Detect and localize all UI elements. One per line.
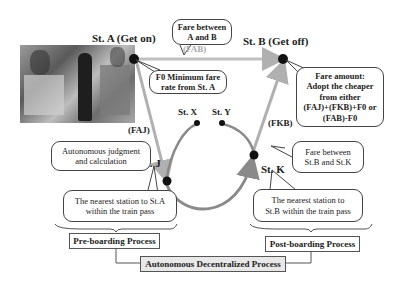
- route-y-k: [223, 124, 254, 155]
- route-j-x: [166, 124, 197, 183]
- post-boarding-process-box: Post-boarding Process: [265, 236, 360, 252]
- callout-f0: F0 Minimum fare rate from St. A: [149, 70, 227, 94]
- station-k-node: [250, 151, 259, 160]
- callout-line: A and B: [178, 32, 227, 43]
- station-k-label: St. K: [261, 163, 285, 175]
- post-boarding-brace: [250, 224, 372, 232]
- station-x-node: [194, 120, 200, 126]
- callout-nearest-a: The nearest station to St.A within the t…: [63, 190, 177, 222]
- station-b-node: [278, 54, 288, 64]
- callout-autonomous-judgment: Autonomous judgment and calculation: [51, 141, 151, 171]
- callout-line: Fare amount:: [303, 71, 376, 82]
- autonomous-decentralized-process-box: Autonomous Decentralized Process: [140, 256, 286, 272]
- station-a-node: [129, 54, 139, 64]
- callout-fare-ab: Fare between A and B: [172, 19, 232, 45]
- station-y-node: [219, 120, 225, 126]
- station-b-label: St. B (Get off): [243, 35, 308, 47]
- callout-line: within the train pass: [75, 206, 165, 217]
- callout-fare-bk: Fare between St.B and St.K: [292, 141, 364, 173]
- callout-line: (FAB)-F0: [303, 113, 376, 124]
- station-a-label: St. A (Get on): [92, 32, 156, 44]
- callout-line: rate from St. A: [156, 82, 221, 93]
- station-x-label: St. X: [178, 107, 197, 117]
- callout-nearest-b: The nearest station to St.B within the t…: [253, 189, 363, 222]
- pre-boarding-process-box: Pre-boarding Process: [69, 233, 160, 249]
- faj-label: (FAJ): [128, 125, 150, 135]
- callout-fare-amount: Fare amount: Adopt the cheaper from eith…: [296, 67, 384, 127]
- callout-line: (FAJ)+(FKB)+F0 or: [303, 102, 376, 113]
- callout-line: Fare between: [178, 22, 227, 33]
- pre-boarding-brace: [55, 224, 177, 232]
- callout-line: Fare between: [305, 147, 352, 158]
- station-j-node: [163, 177, 172, 186]
- callout-line: The nearest station to: [265, 195, 351, 206]
- station-y-label: St. Y: [212, 107, 231, 117]
- callout-tail: [271, 146, 294, 158]
- callout-line: Autonomous judgment: [62, 146, 140, 157]
- callout-line: St.B and St.K: [305, 157, 352, 168]
- callout-line: Adopt the cheaper: [303, 81, 376, 92]
- fkb-label: (FKB): [268, 118, 293, 128]
- callout-line: The nearest station to St.A: [75, 196, 165, 207]
- route-j-k: [166, 160, 252, 209]
- callout-line: F0 Minimum fare: [156, 72, 221, 83]
- callout-line: and calculation: [62, 156, 140, 167]
- fkb-route-line: [252, 64, 283, 155]
- fab-label: (FAB): [183, 44, 206, 54]
- callout-line: St.B within the train pass: [265, 206, 351, 217]
- callout-line: from either: [303, 92, 376, 103]
